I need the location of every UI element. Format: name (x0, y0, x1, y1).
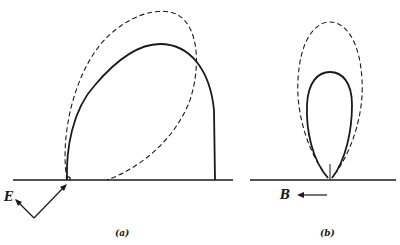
b-arrowhead (297, 192, 304, 198)
e-vector-right-arrow (34, 186, 65, 218)
dashed-pattern-a (65, 11, 196, 180)
solid-pattern-b (307, 72, 352, 178)
e-vector-label: E (4, 190, 13, 204)
panel-a (13, 11, 233, 218)
solid-pattern-a (67, 44, 215, 180)
caption-a: (a) (115, 228, 129, 238)
caption-b: (b) (320, 228, 335, 238)
b-vector-label: B (280, 188, 290, 202)
panel-b (250, 22, 396, 198)
diagram-canvas (0, 0, 400, 245)
